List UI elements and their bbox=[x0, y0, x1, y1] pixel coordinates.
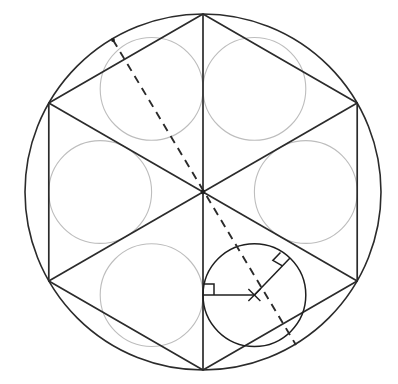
circle-bottom-left bbox=[100, 244, 203, 347]
right-angle-at-tangent-point bbox=[273, 253, 283, 266]
dot-dashed-start bbox=[111, 38, 115, 42]
dot-figure-center bbox=[201, 190, 206, 195]
geometry-figure bbox=[0, 0, 398, 384]
right-angle-marks-group bbox=[203, 253, 282, 296]
circle-right bbox=[254, 141, 357, 244]
circle-top-right bbox=[203, 38, 306, 141]
geometry-canvas bbox=[0, 0, 398, 384]
right-angle-at-vertical-diameter bbox=[203, 284, 214, 295]
circle-top-left bbox=[100, 38, 203, 141]
circle-left bbox=[49, 141, 152, 244]
